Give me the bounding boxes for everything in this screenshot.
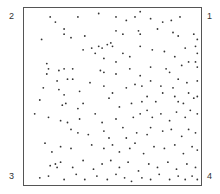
data-point bbox=[153, 146, 155, 148]
data-point bbox=[160, 85, 162, 87]
data-point bbox=[146, 134, 148, 136]
data-point bbox=[115, 118, 117, 120]
data-point bbox=[195, 167, 197, 169]
corner-label-1: 1 bbox=[207, 12, 212, 21]
data-point bbox=[82, 49, 84, 51]
data-point bbox=[82, 103, 84, 105]
data-point bbox=[79, 118, 81, 120]
data-point bbox=[157, 167, 159, 169]
data-point bbox=[188, 92, 190, 94]
data-point bbox=[132, 116, 134, 118]
data-point bbox=[125, 20, 127, 22]
data-point bbox=[188, 129, 190, 131]
data-point bbox=[181, 135, 183, 137]
data-point bbox=[134, 84, 136, 86]
data-point bbox=[157, 28, 159, 30]
data-point bbox=[91, 144, 93, 146]
data-point bbox=[119, 167, 121, 169]
data-point bbox=[196, 39, 198, 41]
data-point bbox=[155, 101, 157, 103]
data-point bbox=[70, 148, 72, 150]
data-point bbox=[184, 47, 186, 49]
data-point bbox=[160, 113, 162, 115]
data-point bbox=[196, 80, 198, 82]
data-point bbox=[70, 37, 72, 39]
data-point bbox=[72, 167, 74, 169]
data-point bbox=[56, 167, 58, 169]
data-point bbox=[84, 179, 86, 181]
data-point bbox=[108, 97, 110, 99]
data-point bbox=[112, 45, 114, 47]
data-point bbox=[143, 153, 145, 155]
data-point bbox=[63, 28, 65, 30]
corner-label-2: 2 bbox=[9, 12, 14, 21]
data-point bbox=[184, 179, 186, 181]
data-point bbox=[176, 168, 178, 170]
data-point bbox=[146, 109, 148, 111]
data-point bbox=[119, 151, 121, 153]
data-point bbox=[164, 51, 166, 53]
data-point bbox=[49, 16, 51, 18]
data-point bbox=[98, 13, 100, 15]
corner-label-3: 3 bbox=[9, 172, 14, 181]
data-point bbox=[170, 20, 172, 22]
data-point bbox=[106, 44, 108, 46]
data-point bbox=[177, 78, 179, 80]
data-point bbox=[44, 142, 46, 144]
data-point bbox=[150, 179, 152, 181]
data-point bbox=[103, 130, 105, 132]
data-point bbox=[60, 120, 62, 122]
data-point bbox=[196, 52, 198, 54]
data-point bbox=[77, 108, 79, 110]
data-point bbox=[94, 113, 96, 115]
data-point bbox=[63, 179, 65, 181]
data-point bbox=[172, 32, 174, 34]
data-point bbox=[177, 175, 179, 177]
data-point bbox=[67, 122, 69, 124]
data-point bbox=[164, 148, 166, 150]
data-point bbox=[67, 78, 69, 80]
data-point bbox=[49, 165, 51, 167]
data-point bbox=[165, 68, 167, 70]
data-point bbox=[177, 101, 179, 103]
data-point bbox=[196, 149, 198, 151]
data-point bbox=[103, 58, 105, 60]
data-point bbox=[151, 49, 153, 51]
data-point bbox=[150, 18, 152, 20]
data-point bbox=[115, 173, 117, 175]
data-point bbox=[42, 87, 44, 89]
data-point bbox=[170, 129, 172, 131]
data-point bbox=[96, 175, 98, 177]
data-point bbox=[139, 11, 141, 13]
data-point bbox=[77, 16, 79, 18]
data-point bbox=[167, 161, 169, 163]
data-point bbox=[103, 71, 105, 73]
data-point bbox=[124, 177, 126, 179]
data-point bbox=[115, 16, 117, 18]
data-point bbox=[58, 70, 60, 72]
data-point bbox=[138, 170, 140, 172]
data-point bbox=[94, 52, 96, 54]
data-point bbox=[60, 161, 62, 163]
data-point bbox=[56, 80, 58, 82]
data-point bbox=[72, 78, 74, 80]
data-point bbox=[115, 73, 117, 75]
data-point bbox=[51, 151, 53, 153]
data-point bbox=[193, 97, 195, 99]
data-point bbox=[48, 68, 50, 70]
data-point bbox=[103, 148, 105, 150]
data-point bbox=[191, 146, 193, 148]
data-point bbox=[196, 113, 198, 115]
data-point bbox=[110, 160, 112, 162]
data-point bbox=[184, 116, 186, 118]
data-point bbox=[119, 106, 121, 108]
data-point bbox=[129, 68, 131, 70]
data-point bbox=[46, 73, 48, 75]
data-point bbox=[125, 137, 127, 139]
data-point bbox=[108, 137, 110, 139]
data-point bbox=[91, 47, 93, 49]
data-point bbox=[141, 177, 143, 179]
data-point bbox=[151, 116, 153, 118]
data-point bbox=[169, 71, 171, 73]
data-point bbox=[100, 70, 102, 72]
